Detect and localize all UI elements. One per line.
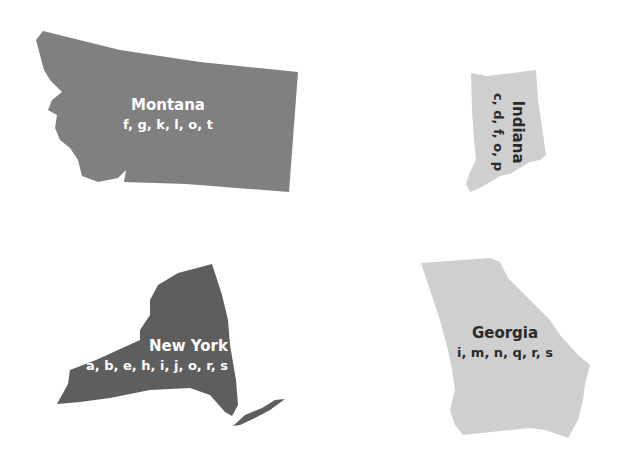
georgia-label: Georgia i, m, n, q, r, s	[445, 323, 565, 363]
new-york-label: New York a, b, e, h, i, j, o, r, s	[78, 336, 228, 376]
state-letters: i, m, n, q, r, s	[445, 343, 565, 363]
state-letters: c, d, f, o, p	[488, 82, 508, 182]
montana-label: Montana f, g, k, l, o, t	[118, 95, 218, 135]
state-name: New York	[78, 336, 228, 356]
state-letters: f, g, k, l, o, t	[118, 115, 218, 135]
state-name: Indiana	[508, 82, 528, 182]
state-maps	[0, 0, 623, 454]
state-name: Georgia	[445, 323, 565, 343]
state-letters: a, b, e, h, i, j, o, r, s	[78, 356, 228, 376]
long-island-shape	[233, 399, 285, 426]
indiana-label: Indiana c, d, f, o, p	[488, 82, 528, 182]
state-name: Montana	[118, 95, 218, 115]
